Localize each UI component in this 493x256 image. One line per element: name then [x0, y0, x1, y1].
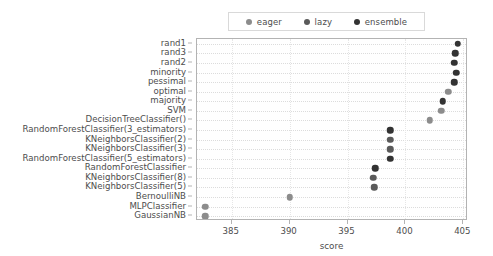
- x-axis-tick: [231, 220, 232, 224]
- x-axis-title: score: [196, 241, 467, 251]
- x-axis-tick: [462, 220, 463, 224]
- data-point[interactable]: [286, 194, 293, 201]
- data-point[interactable]: [454, 41, 461, 48]
- gridline-horizontal: [197, 130, 466, 131]
- y-axis-tick: [188, 215, 192, 216]
- data-point[interactable]: [370, 175, 377, 182]
- data-point[interactable]: [387, 136, 394, 143]
- data-point[interactable]: [387, 127, 394, 134]
- y-axis-tick: [188, 138, 192, 139]
- y-axis-tick: [188, 109, 192, 110]
- data-point[interactable]: [451, 60, 458, 67]
- y-axis-tick-label: optimal: [154, 86, 187, 95]
- y-axis-tick: [188, 186, 192, 187]
- y-axis-tick: [188, 42, 192, 43]
- gridline-vertical: [232, 39, 233, 219]
- data-point[interactable]: [372, 165, 379, 172]
- gridline-vertical: [348, 39, 349, 219]
- gridline-vertical: [463, 39, 464, 219]
- y-axis-tick: [188, 205, 192, 206]
- gridline-horizontal: [197, 63, 466, 64]
- y-axis-tick-label: DecisionTreeClassifier(): [86, 115, 186, 124]
- data-point[interactable]: [452, 50, 459, 57]
- y-axis-tick: [188, 52, 192, 53]
- legend-marker-lazy-icon: [304, 19, 310, 25]
- gridline-horizontal: [197, 149, 466, 150]
- x-axis-tick-label: 395: [338, 226, 354, 236]
- gridline-horizontal: [197, 178, 466, 179]
- legend-marker-ensemble-icon: [354, 19, 360, 25]
- y-axis-labels: rand1rand3rand2minoritypessimaloptimalma…: [0, 38, 192, 220]
- x-axis-tick-label: 400: [396, 226, 412, 236]
- y-axis-tick: [188, 176, 192, 177]
- gridline-horizontal: [197, 111, 466, 112]
- gridline-horizontal: [197, 216, 466, 217]
- y-axis-tick-label: rand2: [161, 58, 186, 67]
- y-axis-tick-label: rand3: [161, 48, 186, 57]
- legend-entry-ensemble[interactable]: ensemble: [354, 17, 407, 27]
- y-axis-tick-label: pessimal: [148, 77, 186, 86]
- data-point[interactable]: [438, 108, 445, 115]
- y-axis-tick-label: MLPClassifier: [129, 201, 186, 210]
- legend-entry-eager[interactable]: eager: [246, 17, 282, 27]
- y-axis-tick: [188, 167, 192, 168]
- y-axis-tick-label: KNeighborsClassifier(2): [85, 134, 186, 143]
- x-axis-tick-label: 385: [223, 226, 239, 236]
- legend-marker-eager-icon: [246, 19, 252, 25]
- y-axis-tick-label: rand1: [161, 38, 186, 47]
- y-axis-tick: [188, 196, 192, 197]
- x-axis-tick-label: 405: [454, 226, 470, 236]
- y-axis-tick: [188, 81, 192, 82]
- y-axis-tick: [188, 157, 192, 158]
- data-point[interactable]: [427, 117, 434, 124]
- y-axis-tick: [188, 129, 192, 130]
- gridline-horizontal: [197, 197, 466, 198]
- y-axis-tick-label: BernoulliNB: [136, 192, 186, 201]
- x-axis-tick: [289, 220, 290, 224]
- y-axis-tick: [188, 148, 192, 149]
- y-axis-tick-label: KNeighborsClassifier(8): [85, 173, 186, 182]
- gridline-horizontal: [197, 82, 466, 83]
- legend: eager lazy ensemble: [228, 12, 425, 31]
- y-axis-tick: [188, 119, 192, 120]
- y-axis-tick-label: RandomForestClassifier(3_estimators): [23, 125, 186, 134]
- gridline-horizontal: [197, 140, 466, 141]
- legend-entry-lazy[interactable]: lazy: [304, 17, 332, 27]
- data-point[interactable]: [451, 79, 458, 86]
- data-point[interactable]: [445, 88, 452, 95]
- y-axis-tick-label: RandomForestClassifier: [85, 163, 186, 172]
- y-axis-tick: [188, 90, 192, 91]
- data-point[interactable]: [439, 98, 446, 105]
- gridline-horizontal: [197, 44, 466, 45]
- x-axis: score 385390395400405: [196, 220, 467, 256]
- x-axis-tick: [404, 220, 405, 224]
- gridline-horizontal: [197, 53, 466, 54]
- data-point[interactable]: [387, 155, 394, 162]
- gridline-horizontal: [197, 73, 466, 74]
- data-point[interactable]: [453, 69, 460, 76]
- y-axis-tick-label: RandomForestClassifier(5_estimators): [23, 153, 186, 162]
- gridline-horizontal: [197, 168, 466, 169]
- chart-page: { "chart_data": { "type": "scatter", "ti…: [0, 0, 493, 256]
- plot-area: [196, 38, 467, 220]
- y-axis-tick-label: GaussianNB: [134, 211, 186, 220]
- data-point[interactable]: [202, 203, 209, 210]
- y-axis-tick: [188, 61, 192, 62]
- legend-label-ensemble: ensemble: [365, 17, 407, 27]
- y-axis-tick-label: KNeighborsClassifier(3): [85, 144, 186, 153]
- gridline-vertical: [405, 39, 406, 219]
- gridline-horizontal: [197, 207, 466, 208]
- data-point[interactable]: [202, 213, 209, 220]
- y-axis-tick-label: KNeighborsClassifier(5): [85, 182, 186, 191]
- gridline-vertical: [290, 39, 291, 219]
- y-axis-tick-label: majority: [150, 96, 186, 105]
- y-axis-tick: [188, 100, 192, 101]
- x-axis-tick-label: 390: [280, 226, 296, 236]
- x-axis-tick: [347, 220, 348, 224]
- data-point[interactable]: [387, 146, 394, 153]
- y-axis-tick-label: SVM: [167, 106, 186, 115]
- gridline-horizontal: [197, 159, 466, 160]
- y-axis-tick: [188, 71, 192, 72]
- legend-label-lazy: lazy: [315, 17, 332, 27]
- data-point[interactable]: [371, 184, 378, 191]
